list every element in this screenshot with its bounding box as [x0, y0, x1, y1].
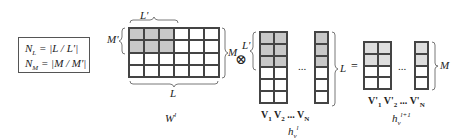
matrix-cell	[364, 54, 378, 66]
brace-input-left-icon	[250, 32, 256, 70]
matrix-cell	[274, 44, 288, 56]
input-ellipsis: ...	[298, 61, 306, 72]
matrix-cell	[159, 28, 174, 40]
matrix-cell	[189, 40, 204, 52]
matrix-cell	[260, 67, 274, 79]
weight-matrix	[128, 27, 220, 78]
matrix-cell	[159, 53, 174, 65]
matrix-cell	[144, 53, 159, 65]
matrix-cell	[364, 66, 378, 78]
matrix-cell	[204, 28, 219, 40]
matrix-cell	[378, 54, 392, 66]
matrix-cell	[144, 65, 159, 77]
matrix-cell	[274, 32, 288, 44]
matrix-cell	[274, 56, 288, 68]
output-matrix-cols-1-2	[363, 41, 392, 90]
label-w: Wl	[165, 112, 176, 124]
matrix-cell	[144, 40, 159, 52]
matrix-cell	[364, 77, 378, 89]
input-matrix-col-n	[314, 31, 329, 104]
matrix-cell	[415, 42, 428, 54]
matrix-cell	[189, 28, 204, 40]
matrix-cell	[129, 53, 144, 65]
output-col-labels: V'1 V'2 ... V'N	[368, 96, 425, 109]
label-l-bottom: L	[170, 88, 176, 99]
matrix-cell	[144, 28, 159, 40]
matrix-cell	[174, 28, 189, 40]
input-matrix-cols-1-2	[259, 31, 288, 104]
label-m-prime-left: M'	[107, 34, 119, 45]
matrix-cell	[260, 44, 274, 56]
matrix-cell	[174, 53, 189, 65]
matrix-cell	[204, 53, 219, 65]
matrix-cell	[260, 56, 274, 68]
kronecker-operator: ⊗	[235, 53, 247, 67]
matrix-cell	[189, 53, 204, 65]
matrix-cell	[260, 91, 274, 103]
matrix-cell	[315, 67, 328, 79]
matrix-cell	[315, 44, 328, 56]
label-h-l-plus-1: hvl+1	[392, 112, 411, 127]
matrix-cell	[204, 40, 219, 52]
matrix-cell	[174, 65, 189, 77]
matrix-cell	[315, 32, 328, 44]
brace-input-right-icon	[332, 32, 338, 106]
matrix-cell	[274, 79, 288, 91]
equals-sign: =	[351, 60, 358, 72]
matrix-cell	[129, 65, 144, 77]
matrix-cell	[204, 65, 219, 77]
matrix-cell	[315, 79, 328, 91]
output-matrix-col-n	[414, 41, 429, 90]
brace-left-icon	[119, 28, 125, 54]
matrix-cell	[415, 54, 428, 66]
matrix-cell	[189, 65, 204, 77]
matrix-cell	[129, 40, 144, 52]
label-m-output-right: M	[440, 60, 449, 71]
matrix-cell	[159, 40, 174, 52]
matrix-cell	[378, 42, 392, 54]
label-h-l: hvl	[288, 125, 299, 140]
matrix-cell	[260, 32, 274, 44]
label-l-prime-top: L'	[140, 10, 148, 21]
brace-output-right-icon	[432, 42, 438, 90]
matrix-cell	[315, 56, 328, 68]
brace-top-icon	[130, 17, 178, 23]
matrix-cell	[159, 65, 174, 77]
output-ellipsis: ...	[398, 61, 406, 72]
matrix-cell	[378, 66, 392, 78]
matrix-cell	[415, 66, 428, 78]
matrix-cell	[260, 79, 274, 91]
input-col-labels: V1 V2 ... VN	[261, 110, 309, 123]
matrix-cell	[378, 77, 392, 89]
label-l-input-right: L	[340, 63, 346, 74]
matrix-cell	[315, 91, 328, 103]
matrix-cell	[129, 28, 144, 40]
label-l-prime-input: L'	[242, 40, 250, 51]
matrix-cell	[174, 40, 189, 52]
matrix-cell	[415, 77, 428, 89]
matrix-cell	[364, 42, 378, 54]
matrix-cell	[274, 91, 288, 103]
matrix-cell	[274, 67, 288, 79]
